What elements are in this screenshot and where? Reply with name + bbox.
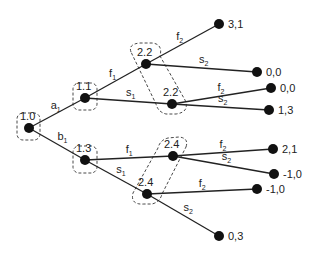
edge-s1	[85, 98, 172, 104]
decision-node	[80, 155, 90, 165]
decision-node	[167, 99, 177, 109]
node-label: 2.4	[164, 138, 179, 150]
payoff-label: 1,3	[278, 104, 293, 116]
terminal-node	[268, 144, 278, 154]
payoff-label: 0,0	[280, 82, 295, 94]
node-label: 1.3	[76, 142, 91, 154]
edge-a1	[29, 98, 85, 128]
payoff-label: 3,1	[228, 18, 243, 30]
terminal-node	[269, 169, 279, 179]
payoff-label: 0,0	[266, 66, 281, 78]
action-label: f1	[126, 143, 133, 157]
terminal-node	[252, 184, 262, 194]
decision-node	[24, 123, 34, 133]
payoff-label: 2,1	[282, 143, 297, 155]
payoff-label: -1,0	[266, 183, 285, 195]
node-label: 1.0	[20, 110, 35, 122]
action-label: f2	[199, 177, 206, 191]
action-label: s1	[126, 86, 136, 100]
action-label: s2	[218, 92, 228, 106]
edge-f1	[85, 64, 146, 98]
node-label: 2.2	[137, 46, 152, 58]
action-label: s2	[199, 53, 209, 67]
decision-node	[142, 189, 152, 199]
payoff-label: -1,0	[283, 168, 302, 180]
action-label: f2	[176, 30, 183, 44]
terminal-node	[214, 231, 224, 241]
action-label: f1	[109, 67, 116, 81]
edge-s2	[146, 64, 257, 72]
node-label: 2.4	[138, 176, 153, 188]
action-label: s2	[184, 201, 194, 215]
action-label: b1	[57, 130, 67, 144]
payoff-label: 0,3	[228, 230, 243, 242]
action-label: a1	[51, 99, 61, 113]
node-label: 1.1	[76, 80, 91, 92]
node-label: 2.2	[163, 86, 178, 98]
terminal-node	[264, 105, 274, 115]
terminal-node	[214, 19, 224, 29]
terminal-node	[266, 83, 276, 93]
edge-s2	[172, 104, 269, 110]
decision-node	[80, 93, 90, 103]
terminal-node	[252, 67, 262, 77]
decision-node	[141, 59, 151, 69]
decision-node	[168, 151, 178, 161]
game-tree: a1b1f1s1f1s1f2s2f2s2f2s2f2s2 1.01.11.32.…	[0, 0, 313, 255]
action-label: s1	[116, 163, 126, 177]
